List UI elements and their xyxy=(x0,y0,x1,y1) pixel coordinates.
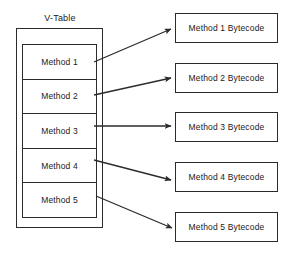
bytecode-box-method-5[interactable]: Method 5 Bytecode xyxy=(175,212,278,242)
bytecode-box-method-1[interactable]: Method 1 Bytecode xyxy=(175,13,278,43)
vtable-row-label: Method 5 xyxy=(41,195,78,205)
bytecode-box-label: Method 4 Bytecode xyxy=(189,172,265,182)
vtable-row-method-3[interactable]: Method 3 xyxy=(23,114,96,149)
arrow-method-2 xyxy=(94,78,171,95)
vtable-row-label: Method 4 xyxy=(41,161,78,171)
diagram-canvas: V-Table Method 1 Method 2 Method 3 Metho… xyxy=(0,0,289,266)
vtable-row-method-4[interactable]: Method 4 xyxy=(23,149,96,184)
vtable-method-list: Method 1 Method 2 Method 3 Method 4 Meth… xyxy=(22,44,97,218)
vtable-title: V-Table xyxy=(16,13,104,24)
bytecode-box-label: Method 5 Bytecode xyxy=(189,222,265,232)
bytecode-box-method-3[interactable]: Method 3 Bytecode xyxy=(175,112,278,142)
vtable-row-method-1[interactable]: Method 1 xyxy=(23,45,96,80)
vtable-row-method-5[interactable]: Method 5 xyxy=(23,183,96,217)
vtable-row-label: Method 3 xyxy=(41,126,78,136)
bytecode-box-label: Method 2 Bytecode xyxy=(189,73,265,83)
bytecode-box-label: Method 3 Bytecode xyxy=(189,122,265,132)
bytecode-box-method-2[interactable]: Method 2 Bytecode xyxy=(175,63,278,93)
vtable-row-label: Method 1 xyxy=(41,57,78,67)
bytecode-box-label: Method 1 Bytecode xyxy=(189,23,265,33)
arrow-method-4 xyxy=(94,160,171,180)
arrow-method-1 xyxy=(94,29,171,62)
bytecode-box-method-4[interactable]: Method 4 Bytecode xyxy=(175,162,278,192)
vtable-row-method-2[interactable]: Method 2 xyxy=(23,80,96,115)
arrow-method-5 xyxy=(96,196,172,228)
vtable-row-label: Method 2 xyxy=(41,91,78,101)
